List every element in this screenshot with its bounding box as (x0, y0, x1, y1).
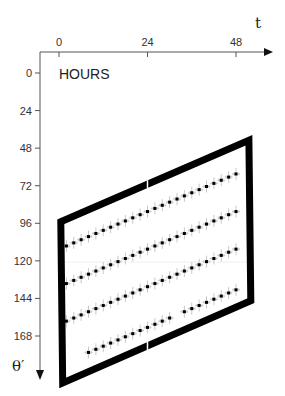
data-point (212, 257, 215, 260)
data-point (94, 348, 97, 351)
data-point (198, 226, 201, 229)
data-point (220, 216, 223, 219)
data-point (190, 191, 193, 194)
data-point (146, 285, 149, 288)
data-point (80, 238, 83, 241)
data-point (183, 232, 186, 235)
data-point (205, 260, 208, 263)
data-point (146, 210, 149, 213)
data-point (227, 213, 230, 216)
data-point (153, 244, 156, 247)
data-point (146, 248, 149, 251)
data-point (139, 213, 142, 216)
data-point (139, 288, 142, 291)
data-point (220, 179, 223, 182)
y-tick-label: 144 (14, 292, 32, 304)
series-row-2 (62, 206, 240, 290)
data-point (72, 241, 75, 244)
data-point (235, 288, 238, 291)
data-point (198, 304, 201, 307)
data-point (235, 210, 238, 213)
data-point (124, 335, 127, 338)
data-point (161, 241, 164, 244)
data-point (168, 238, 171, 241)
data-point (87, 235, 90, 238)
data-point (80, 276, 83, 279)
y-ticks: 024487296120144168 (14, 67, 40, 342)
data-point (87, 273, 90, 276)
x-axis: 02448 t (40, 14, 273, 57)
data-point (212, 219, 215, 222)
y-axis: 024487296120144168 θ′ (12, 52, 44, 380)
data-point (227, 251, 230, 254)
data-point (198, 188, 201, 191)
data-point (176, 273, 179, 276)
data-point (102, 345, 105, 348)
data-point (176, 198, 179, 201)
y-axis-arrow-icon (36, 370, 44, 380)
data-point (205, 301, 208, 304)
y-tick-label: 48 (20, 142, 32, 154)
data-point (153, 282, 156, 285)
data-point (190, 229, 193, 232)
data-point (168, 276, 171, 279)
data-point (183, 310, 186, 313)
data-point (124, 295, 127, 298)
data-point (124, 219, 127, 222)
data-point (109, 226, 112, 229)
data-point (87, 310, 90, 313)
data-point (161, 279, 164, 282)
data-point (168, 316, 171, 319)
data-point (176, 235, 179, 238)
data-point (131, 254, 134, 257)
y-tick-label: 72 (20, 180, 32, 192)
data-point (65, 282, 68, 285)
units-label: HOURS (59, 66, 110, 82)
data-point (161, 320, 164, 323)
data-point (117, 298, 120, 301)
y-tick-label: 96 (20, 217, 32, 229)
data-point (153, 323, 156, 326)
data-point (220, 295, 223, 298)
y-tick-label: 24 (20, 105, 32, 117)
data-point (117, 338, 120, 341)
x-tick-label: 48 (230, 36, 242, 48)
x-ticks: 02448 (56, 36, 242, 57)
series-row-4 (85, 284, 241, 359)
data-point (65, 244, 68, 247)
data-point (87, 351, 90, 354)
data-point (190, 266, 193, 269)
x-axis-arrow-icon (264, 48, 273, 56)
data-point (205, 223, 208, 226)
data-point (235, 172, 238, 175)
y-tick-label: 120 (14, 255, 32, 267)
data-point (131, 332, 134, 335)
data-point (139, 251, 142, 254)
data-point (94, 232, 97, 235)
data-point (117, 260, 120, 263)
data-point (161, 204, 164, 207)
data-point (124, 257, 127, 260)
data-point (190, 307, 193, 310)
data-point (227, 176, 230, 179)
data-point (168, 201, 171, 204)
data-point (117, 223, 120, 226)
data-point (131, 291, 134, 294)
data-point (102, 266, 105, 269)
data-point (146, 326, 149, 329)
data-point (72, 316, 75, 319)
x-tick-label: 24 (141, 36, 153, 48)
data-point (102, 304, 105, 307)
y-axis-label: θ′ (12, 357, 25, 375)
y-tick-label: 168 (14, 330, 32, 342)
y-tick-label: 0 (26, 67, 32, 79)
data-series (62, 168, 240, 358)
x-tick-label: 0 (56, 36, 62, 48)
actogram-chart: 02448 t 024487296120144168 θ′ HOURS (0, 0, 285, 396)
data-point (183, 194, 186, 197)
data-point (94, 307, 97, 310)
data-point (72, 279, 75, 282)
data-point (153, 207, 156, 210)
data-point (198, 263, 201, 266)
data-point (102, 229, 105, 232)
